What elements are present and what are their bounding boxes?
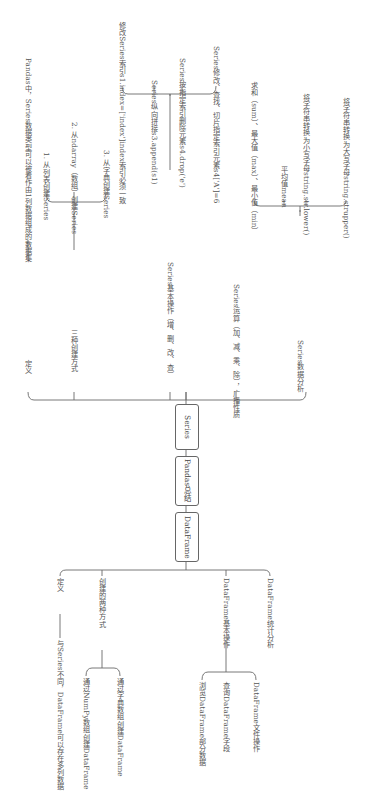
dataframe-definition-branch: 定义 xyxy=(56,578,65,592)
series-definition-text: Pandas中，Series数据类型可以被看作由1列数据组成的数据集 xyxy=(24,58,33,262)
dataframe-creation-dict: 通过字典数组创建DataFrame xyxy=(116,678,125,777)
series-analysis-branch: Series数据分析 xyxy=(296,340,305,392)
dataframe-basic-ops-branch: DataFrame基本操作 xyxy=(222,578,231,648)
series-node-label: Series xyxy=(183,415,192,439)
mind-map-canvas: Series Pandas总结 DataFrame 定义 Pandas中，Ser… xyxy=(0,0,370,798)
series-op-modify-index: 修改Series索引s1.index=['index']index索引必须一致 xyxy=(118,22,127,204)
series-analysis-upper: 将字符串转换为大写字母string.strupper() xyxy=(342,98,351,239)
series-analysis-lower: 将字符串转换为小写字母string.str.lower() xyxy=(302,94,311,235)
series-creation-ndarray: 2. 从ndarray（数组）创建Series xyxy=(70,122,79,234)
dataframe-op-file: DataFrame文件操作 xyxy=(252,682,261,752)
series-op-append: Series纵向拼接s3.append(s1) xyxy=(150,80,159,185)
dataframe-node-label: DataFrame xyxy=(183,516,192,559)
dataframe-creation-numpy: 通过NumPy数组创建DataFrame xyxy=(82,678,91,790)
series-definition-branch: 定义 xyxy=(24,360,33,374)
series-op-drop: Series按指定索引删除元素s4.drop('e') xyxy=(178,58,187,188)
dataframe-definition-text: 与Series不同，DataFrame可以存在多列数据 xyxy=(56,640,65,791)
series-creation-branch: 三种创建方式 xyxy=(70,330,79,373)
series-op-modify-find: Series修改、查找、切片指定索引元素s4['A']=6 xyxy=(212,46,221,203)
dataframe-op-browse: 浏览DataFrame部分数据 xyxy=(198,682,207,767)
series-arithmetic-branch: Series运算（加、减、乘、除），广播性质 xyxy=(232,284,241,418)
series-analysis-sum-max-min: 求和（sum）、最大值（max）、最小值（min） xyxy=(250,82,259,235)
root-node-label: Pandas总结 xyxy=(182,459,193,502)
dataframe-op-query-field: 查询DataFrame字段 xyxy=(222,682,231,752)
root-node[interactable]: Pandas总结 xyxy=(175,456,199,506)
series-basic-ops-branch: Series基本操作（增、删、改、查） xyxy=(166,262,175,378)
dataframe-node[interactable]: DataFrame xyxy=(175,512,199,562)
dataframe-stats-branch: DataFrame统计分析 xyxy=(266,578,275,648)
series-creation-list: 1. 从列表创建Series xyxy=(42,152,51,220)
series-node[interactable]: Series xyxy=(175,404,199,450)
dataframe-creation-branch: 创建的两种方式 xyxy=(98,578,107,628)
series-analysis-mean: 平均值mean xyxy=(280,166,289,208)
series-creation-dict: 3. 从字典创建Series xyxy=(102,150,111,218)
